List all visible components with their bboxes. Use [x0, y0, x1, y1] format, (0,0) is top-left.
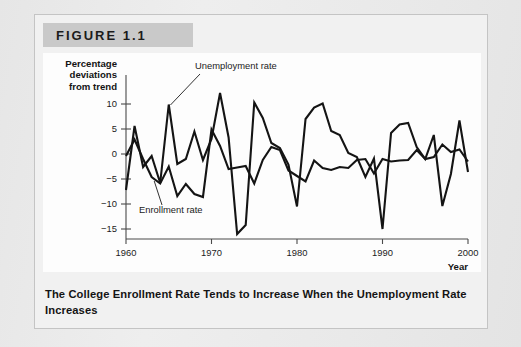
x-axis-title: Year — [448, 261, 469, 272]
annotation-enrollment-rate: Enrollment rate — [139, 204, 203, 215]
x-tick-label: 1980 — [287, 247, 308, 258]
y-tick-label: 0 — [112, 148, 117, 159]
y-tick-label: 5 — [112, 123, 117, 134]
y-tick-label: −5 — [106, 173, 117, 184]
x-tick-label: 1960 — [116, 247, 137, 258]
figure-caption: The College Enrollment Rate Tends to Inc… — [45, 287, 469, 319]
figure-number-label: FIGURE 1.1 — [56, 28, 147, 43]
x-tick-label: 1970 — [201, 247, 222, 258]
y-tick-label: 10 — [107, 98, 117, 109]
x-tick-label: 1990 — [372, 247, 393, 258]
annotation-leader-enrollment — [154, 181, 162, 205]
y-axis-title-line: from trend — [69, 81, 117, 92]
line-chart: 1050−5−10−1519601970198019902000Percenta… — [43, 53, 481, 272]
figure-box: FIGURE 1.1 1050−5−10−1519601970198019902… — [34, 14, 488, 329]
plot-panel: 1050−5−10−1519601970198019902000Percenta… — [43, 53, 481, 272]
y-axis-title-line: deviations — [70, 69, 117, 80]
x-tick-label: 2000 — [458, 247, 479, 258]
y-axis-title-line: Percentage — [65, 58, 117, 69]
figure-banner: FIGURE 1.1 — [43, 23, 193, 47]
annotation-unemployment-rate: Unemployment rate — [195, 60, 277, 71]
y-tick-label: −15 — [101, 223, 117, 234]
annotation-leader-unemployment — [170, 74, 200, 105]
y-tick-label: −10 — [101, 198, 117, 209]
page-background: FIGURE 1.1 1050−5−10−1519601970198019902… — [0, 0, 521, 347]
